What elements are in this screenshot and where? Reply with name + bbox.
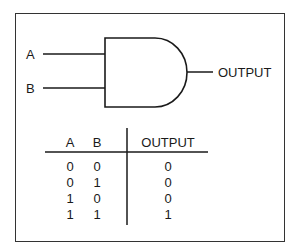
table-cell: 0 xyxy=(160,192,176,205)
input-b-label: B xyxy=(26,82,35,95)
table-cell: 1 xyxy=(89,176,105,189)
table-cell: 1 xyxy=(160,208,176,221)
table-cell: 0 xyxy=(160,160,176,173)
table-cell: 0 xyxy=(89,160,105,173)
table-cell: 0 xyxy=(89,192,105,205)
and-gate-diagram xyxy=(0,0,300,251)
input-a-label: A xyxy=(26,48,35,61)
table-cell: 1 xyxy=(89,208,105,221)
table-header-a: A xyxy=(62,136,78,149)
table-header-b: B xyxy=(89,136,105,149)
and-gate-icon xyxy=(105,38,187,107)
table-header-output: OUTPUT xyxy=(133,136,203,149)
table-cell: 0 xyxy=(62,176,78,189)
table-cell: 0 xyxy=(160,176,176,189)
table-cell: 1 xyxy=(62,208,78,221)
table-cell: 1 xyxy=(62,192,78,205)
table-cell: 0 xyxy=(62,160,78,173)
output-label: OUTPUT xyxy=(218,66,271,79)
